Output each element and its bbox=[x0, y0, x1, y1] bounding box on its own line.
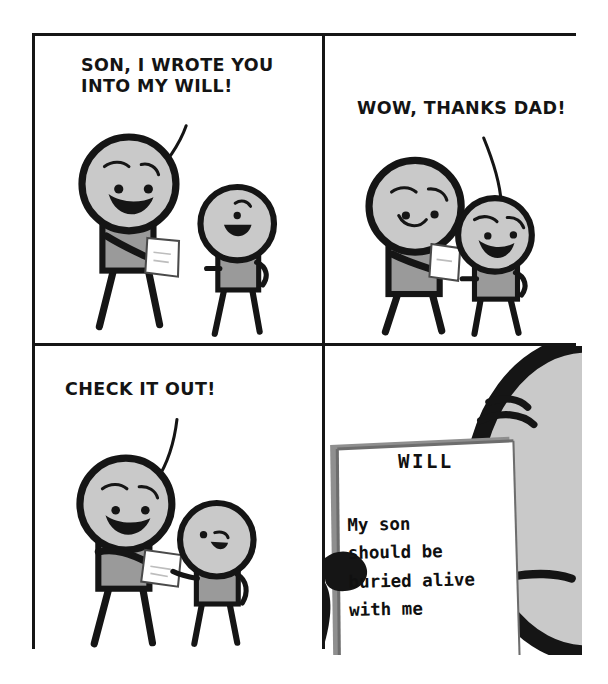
dad-head bbox=[80, 458, 172, 550]
will-document-large bbox=[330, 437, 519, 655]
panel-3-artwork bbox=[35, 346, 322, 655]
son-head bbox=[200, 187, 274, 260]
comic-panel-1: Son, I wrote you into my will! bbox=[35, 36, 322, 343]
son-head bbox=[180, 503, 254, 576]
comic-panel-2: Wow, thanks dad! bbox=[325, 36, 582, 343]
son-head bbox=[458, 198, 532, 271]
dad-leg-right bbox=[142, 586, 152, 643]
comic-strip: Son, I wrote you into my will! bbox=[0, 0, 608, 684]
dad-head bbox=[369, 160, 461, 252]
son-eye-left bbox=[484, 232, 491, 239]
comic-panel-3: Check it out! bbox=[35, 346, 322, 655]
dad-eye-left bbox=[114, 184, 123, 193]
son-leg-right bbox=[252, 286, 260, 332]
dad-eye-right bbox=[144, 184, 153, 193]
will-paper-small bbox=[145, 238, 179, 277]
dad-eye-left bbox=[402, 211, 410, 219]
son-eye bbox=[234, 212, 241, 219]
son-eye bbox=[200, 531, 207, 538]
panel-2-artwork bbox=[325, 36, 582, 343]
dad-eye-right bbox=[141, 506, 150, 515]
comic-panel-grid: Son, I wrote you into my will! bbox=[32, 33, 576, 649]
dad-leg-left bbox=[99, 265, 114, 326]
son-eye-right bbox=[510, 231, 517, 238]
son-leg-left bbox=[215, 286, 225, 334]
comic-panel-4: WILL My son should be buried alive with … bbox=[325, 346, 582, 655]
dad-eye-left bbox=[111, 506, 120, 515]
panel-4-artwork bbox=[325, 346, 582, 655]
will-paper-small bbox=[429, 244, 460, 281]
dad-leg-left bbox=[94, 586, 109, 644]
son-leg-right bbox=[229, 601, 237, 643]
dad-eye-right bbox=[430, 210, 438, 218]
speech-tail-icon bbox=[484, 138, 501, 202]
son-leg-left bbox=[194, 601, 202, 644]
will-paper-offered bbox=[141, 550, 181, 587]
panel-1-artwork bbox=[35, 36, 322, 343]
dad-head bbox=[82, 137, 176, 231]
